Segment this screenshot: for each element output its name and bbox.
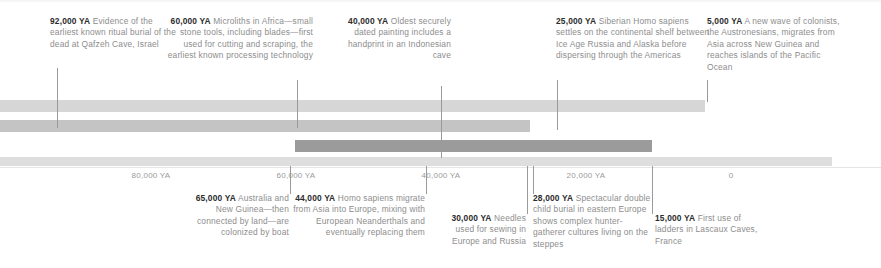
annotation-year: 44,000 YA [295, 193, 335, 203]
axis-tick-label: 80,000 YA [132, 171, 171, 180]
note-65000: 65,000 YA Australia and New Guinea—then … [176, 193, 289, 239]
axis-tick-label: 40,000 YA [422, 171, 461, 180]
annotation-year: 15,000 YA [655, 213, 695, 223]
leader-line [707, 80, 708, 102]
axis-tick-label: 0 [729, 171, 734, 180]
note-60000: 60,000 YA Microliths in Africa—small sto… [162, 16, 313, 62]
annotation-year: 40,000 YA [348, 16, 388, 26]
annotation-year: 30,000 YA [451, 213, 491, 223]
band-3 [295, 140, 652, 152]
leader-line [57, 68, 58, 128]
annotation-year: 92,000 YA [50, 16, 90, 26]
leader-line [527, 166, 528, 214]
leader-line [441, 86, 442, 158]
note-25000: 25,000 YA Siberian Homo sapiens settles … [556, 16, 712, 62]
annotation-year: 25,000 YA [556, 16, 596, 26]
leader-line [557, 80, 558, 130]
timeline-figure: 80,000 YA60,000 YA40,000 YA20,000 YA0 92… [0, 0, 881, 268]
note-15000: 15,000 YA First use of ladders in Lascau… [655, 213, 759, 247]
annotation-year: 60,000 YA [171, 16, 211, 26]
note-92000: 92,000 YA Evidence of the earliest known… [50, 16, 178, 50]
note-5000: 5,000 YA A new wave of colonists, the Au… [707, 16, 847, 73]
leader-line [297, 80, 298, 128]
axis-baseline [0, 167, 881, 168]
leader-line [652, 166, 653, 214]
axis-tick-label: 60,000 YA [277, 171, 316, 180]
annotation-year: 5,000 YA [707, 16, 742, 26]
note-44000: 44,000 YA Homo sapiens migrate from Asia… [291, 193, 425, 239]
leader-line [426, 166, 427, 194]
band-2 [0, 120, 530, 132]
annotation-year: 28,000 YA [533, 193, 573, 203]
note-28000: 28,000 YA Spectacular double child buria… [533, 193, 651, 250]
note-40000: 40,000 YA Oldest securely dated painting… [338, 16, 451, 62]
band-4 [0, 157, 832, 166]
top-divider [0, 0, 881, 3]
leader-line [533, 166, 534, 194]
band-1 [0, 100, 705, 112]
leader-line [290, 166, 291, 194]
note-30000: 30,000 YA Needles used for sewing in Eur… [437, 213, 526, 247]
annotation-year: 65,000 YA [196, 193, 236, 203]
axis-tick-label: 20,000 YA [567, 171, 606, 180]
